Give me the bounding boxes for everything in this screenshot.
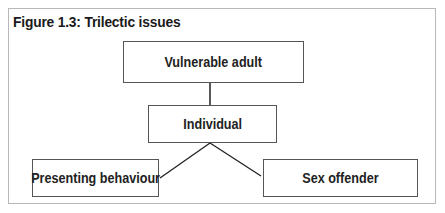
node-individual: Individual bbox=[148, 105, 277, 143]
node-vulnerable-adult: Vulnerable adult bbox=[123, 41, 304, 83]
node-label: Sex offender bbox=[302, 170, 378, 186]
node-presenting-behaviour: Presenting behaviour bbox=[32, 159, 159, 197]
figure-title: Figure 1.3: Trilectic issues bbox=[13, 13, 180, 30]
node-label: Individual bbox=[183, 116, 242, 132]
node-sex-offender: Sex offender bbox=[263, 159, 418, 197]
node-label: Vulnerable adult bbox=[165, 54, 263, 70]
node-label: Presenting behaviour bbox=[31, 170, 160, 186]
